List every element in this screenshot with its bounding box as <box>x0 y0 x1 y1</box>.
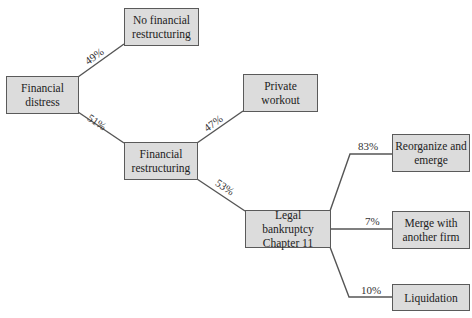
node-label: distress <box>21 95 64 109</box>
node-label: restructuring <box>132 27 191 41</box>
financial-distress-tree-diagram: Financial distress No financial restruct… <box>0 0 472 318</box>
node-private-workout: Private workout <box>243 74 318 112</box>
node-reorganize-and-emerge: Reorganize and emerge <box>392 134 470 172</box>
node-label: Merge with <box>402 216 459 230</box>
node-label: Financial <box>132 147 191 161</box>
node-label: Chapter 11 <box>248 236 328 250</box>
node-label: restructuring <box>132 161 191 175</box>
node-label: Private <box>261 79 299 93</box>
edge-bankruptcy-reorganize <box>330 154 392 211</box>
edge-label-10: 10% <box>361 284 381 296</box>
node-label: Liquidation <box>404 291 458 305</box>
node-label: Legal bankruptcy <box>248 208 328 236</box>
node-legal-bankruptcy-chapter-11: Legal bankruptcy Chapter 11 <box>245 210 331 248</box>
node-financial-restructuring: Financial restructuring <box>124 142 198 180</box>
node-label: No financial <box>132 13 191 27</box>
node-label: workout <box>261 93 299 107</box>
node-label: emerge <box>395 153 467 167</box>
node-label: Reorganize and <box>395 139 467 153</box>
node-no-financial-restructuring: No financial restructuring <box>124 8 199 46</box>
node-financial-distress: Financial distress <box>6 76 79 114</box>
node-label: another firm <box>402 230 459 244</box>
edge-label-83: 83% <box>358 140 378 152</box>
edge-label-7: 7% <box>365 215 380 227</box>
node-merge-with-another-firm: Merge with another firm <box>392 211 470 249</box>
node-label: Financial <box>21 81 64 95</box>
node-liquidation: Liquidation <box>392 284 470 311</box>
